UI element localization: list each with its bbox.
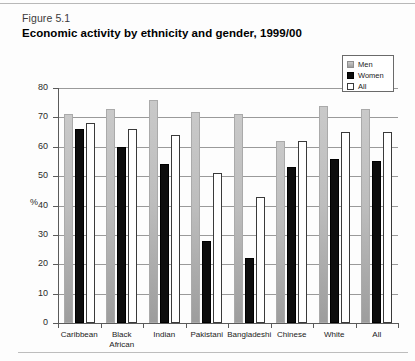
- figure-number: Figure 5.1: [22, 12, 70, 24]
- x-axis-tick: [398, 323, 399, 328]
- bar-women: [160, 164, 169, 323]
- bottom-divider: [18, 352, 408, 353]
- bar-men: [234, 114, 243, 323]
- bar-all: [256, 197, 265, 323]
- bar-all: [213, 173, 222, 323]
- y-axis-label: 10: [18, 288, 48, 298]
- top-divider: [0, 3, 415, 4]
- x-axis-label-line: Indian: [153, 330, 175, 339]
- y-axis-label: 60: [18, 141, 48, 151]
- y-axis-title: %: [30, 197, 38, 207]
- bar-women: [245, 258, 254, 323]
- legend-item-all: All: [347, 81, 393, 92]
- figure-container: Figure 5.1 Economic activity by ethnicit…: [0, 0, 415, 361]
- bar-women: [202, 241, 211, 323]
- x-axis-label-line: African: [109, 340, 134, 349]
- bar-men: [106, 109, 115, 323]
- x-axis-label-line: Chinese: [277, 330, 306, 339]
- x-axis: [58, 323, 398, 324]
- y-axis: [58, 88, 59, 324]
- x-axis-label-line: Pakistani: [191, 330, 223, 339]
- page-title: Economic activity by ethnicity and gende…: [22, 27, 302, 39]
- legend-label-men: Men: [358, 60, 373, 69]
- bar-women: [287, 167, 296, 323]
- legend-label-all: All: [358, 82, 366, 91]
- legend-item-women: Women: [347, 70, 393, 81]
- bar-men: [361, 109, 370, 323]
- y-axis-label: 50: [18, 170, 48, 180]
- women-swatch-icon: [347, 72, 354, 79]
- x-axis-label-line: White: [324, 330, 344, 339]
- bar-all: [128, 129, 137, 323]
- bar-women: [117, 147, 126, 323]
- x-axis-label-line: Black: [112, 330, 132, 339]
- bar-men: [149, 100, 158, 323]
- bar-men: [64, 114, 73, 323]
- chart-plot-area: 01020304050607080CaribbeanBlackAfricanIn…: [58, 88, 398, 323]
- x-axis-label: All: [352, 330, 403, 340]
- y-axis-label: 80: [18, 82, 48, 92]
- chart-legend: Men Women All: [342, 55, 394, 92]
- bar-men: [276, 141, 285, 323]
- legend-label-women: Women: [358, 71, 384, 80]
- bar-men: [319, 106, 328, 323]
- men-swatch-icon: [347, 61, 354, 68]
- y-axis-label: 30: [18, 229, 48, 239]
- bar-all: [86, 123, 95, 323]
- all-swatch-icon: [347, 83, 354, 90]
- legend-item-men: Men: [347, 59, 393, 70]
- bar-women: [330, 159, 339, 324]
- x-axis-label-line: Caribbean: [61, 330, 98, 339]
- bar-women: [75, 129, 84, 323]
- x-axis-label-line: Bangladeshi: [227, 330, 271, 339]
- y-axis-label: 20: [18, 258, 48, 268]
- bar-all: [171, 135, 180, 323]
- x-axis-label-line: All: [372, 330, 381, 339]
- bar-all: [383, 132, 392, 323]
- bar-all: [341, 132, 350, 323]
- y-axis-label: 0: [18, 317, 48, 327]
- bar-men: [191, 112, 200, 324]
- bar-all: [298, 141, 307, 323]
- y-axis-label: 70: [18, 111, 48, 121]
- bar-women: [372, 161, 381, 323]
